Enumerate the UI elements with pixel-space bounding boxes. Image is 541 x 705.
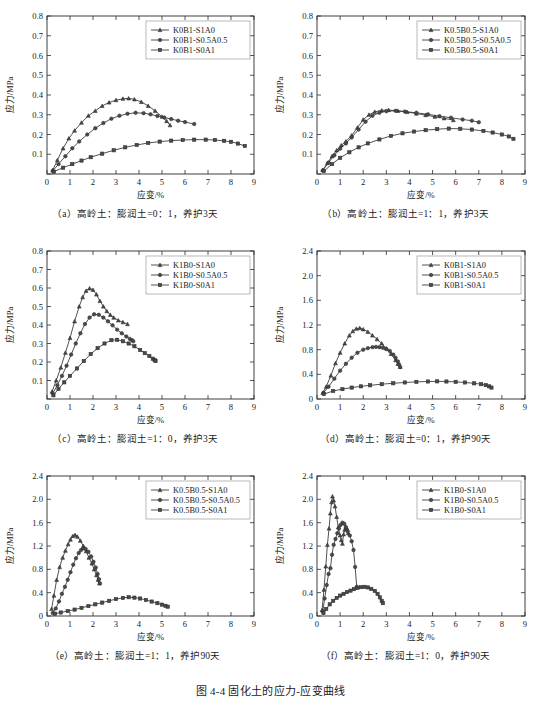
svg-text:0.2: 0.2: [32, 130, 43, 140]
svg-text:3: 3: [384, 619, 388, 629]
svg-text:7: 7: [206, 177, 211, 187]
svg-text:0.4: 0.4: [302, 369, 313, 379]
subplot-e: 012345678900.40.81.21.62.02.4应变/%应力/MPaK…: [0, 460, 270, 672]
svg-text:1.6: 1.6: [302, 518, 313, 528]
svg-text:2: 2: [91, 619, 95, 629]
svg-text:2.4: 2.4: [32, 471, 43, 481]
svg-text:K0.5B0.5-S0A1: K0.5B0.5-S0A1: [173, 506, 227, 515]
svg-text:8: 8: [500, 619, 504, 629]
svg-text:2: 2: [361, 619, 365, 629]
svg-text:5: 5: [160, 619, 164, 629]
svg-text:7: 7: [206, 402, 211, 412]
svg-text:3: 3: [384, 402, 388, 412]
svg-text:0: 0: [315, 177, 319, 187]
svg-text:6: 6: [183, 402, 188, 412]
svg-text:9: 9: [252, 402, 256, 412]
svg-text:7: 7: [477, 177, 482, 187]
svg-text:0.7: 0.7: [302, 31, 313, 41]
subplot-a-caption: （a）高岭土：膨润土=0：1，养护3天: [0, 206, 270, 220]
svg-text:应变/%: 应变/%: [137, 414, 165, 425]
svg-text:K1B0-S1A0: K1B0-S1A0: [173, 261, 215, 270]
subplot-d-caption: （d）高岭土：膨润土=0：1，养护90天: [270, 431, 541, 445]
svg-text:0.1: 0.1: [32, 376, 43, 386]
svg-text:0: 0: [45, 619, 49, 629]
svg-text:2: 2: [91, 402, 95, 412]
svg-text:1: 1: [338, 177, 342, 187]
svg-text:6: 6: [454, 619, 459, 629]
svg-text:1.2: 1.2: [32, 541, 43, 551]
svg-text:0.8: 0.8: [32, 11, 43, 21]
svg-text:0.1: 0.1: [32, 149, 43, 159]
svg-text:0: 0: [309, 394, 313, 404]
svg-text:应力/MPa: 应力/MPa: [274, 77, 285, 114]
svg-text:0.4: 0.4: [32, 320, 43, 330]
svg-text:3: 3: [384, 177, 388, 187]
subplot-a: 01234567890.10.20.30.40.50.60.70.8应变/%应力…: [0, 0, 270, 235]
svg-text:8: 8: [500, 177, 504, 187]
svg-text:4: 4: [137, 619, 142, 629]
svg-text:1: 1: [338, 402, 342, 412]
svg-text:7: 7: [477, 402, 482, 412]
svg-text:0.6: 0.6: [32, 283, 43, 293]
svg-text:0.8: 0.8: [32, 564, 43, 574]
svg-text:1.6: 1.6: [302, 295, 313, 305]
svg-text:K0B1-S1A0: K0B1-S1A0: [173, 26, 215, 35]
svg-text:8: 8: [229, 619, 233, 629]
subplot-b-svg: 01234567890.10.20.30.40.50.60.70.8应变/%应力…: [270, 0, 541, 218]
svg-text:2: 2: [91, 177, 95, 187]
svg-text:4: 4: [137, 402, 142, 412]
svg-text:9: 9: [523, 177, 527, 187]
svg-text:K0.5B0.5-S0A1: K0.5B0.5-S0A1: [444, 46, 498, 55]
subplot-c: 01234567890.10.20.30.40.50.60.70.8应变/%应力…: [0, 235, 270, 460]
svg-text:应变/%: 应变/%: [407, 631, 435, 642]
svg-text:0.3: 0.3: [302, 110, 313, 120]
svg-text:3: 3: [114, 177, 118, 187]
svg-text:应变/%: 应变/%: [407, 189, 435, 200]
svg-text:9: 9: [252, 619, 256, 629]
svg-text:K0.5B0.5-S1A0: K0.5B0.5-S1A0: [173, 486, 227, 495]
svg-text:0: 0: [45, 402, 49, 412]
svg-text:5: 5: [430, 619, 434, 629]
svg-text:0.8: 0.8: [302, 564, 313, 574]
svg-text:8: 8: [500, 402, 504, 412]
svg-text:0.4: 0.4: [32, 90, 43, 100]
svg-text:K0.5B0.5-S0.5A0.5: K0.5B0.5-S0.5A0.5: [173, 496, 240, 505]
svg-text:K1B0-S1A0: K1B0-S1A0: [444, 486, 486, 495]
svg-text:0.6: 0.6: [302, 51, 313, 61]
subplot-c-svg: 01234567890.10.20.30.40.50.60.70.8应变/%应力…: [0, 235, 270, 443]
svg-text:0: 0: [39, 611, 43, 621]
figure-caption: 图 4-4 固化土的应力-应变曲线: [0, 682, 541, 698]
subplot-c-caption: （c）高岭土：膨润土=1：0，养护3天: [0, 431, 270, 445]
svg-text:1: 1: [68, 619, 72, 629]
subplot-f: 012345678900.40.81.21.62.02.4应变/%应力/MPaK…: [270, 460, 541, 672]
svg-text:0.2: 0.2: [32, 357, 43, 367]
svg-text:0.8: 0.8: [302, 11, 313, 21]
svg-text:应变/%: 应变/%: [137, 189, 165, 200]
subplot-e-caption: （e）高岭土：膨润土=1：1，养护90天: [0, 648, 270, 662]
svg-text:2.0: 2.0: [302, 494, 313, 504]
svg-text:5: 5: [160, 402, 164, 412]
svg-text:7: 7: [206, 619, 211, 629]
svg-text:6: 6: [454, 177, 459, 187]
subplot-e-svg: 012345678900.40.81.21.62.02.4应变/%应力/MPaK…: [0, 460, 270, 660]
svg-text:9: 9: [523, 402, 527, 412]
svg-text:0.5: 0.5: [302, 70, 313, 80]
svg-text:K1B0-S0A1: K1B0-S0A1: [444, 506, 486, 515]
svg-text:0: 0: [315, 402, 319, 412]
svg-text:8: 8: [229, 177, 233, 187]
svg-text:2.4: 2.4: [302, 471, 313, 481]
svg-text:7: 7: [477, 619, 482, 629]
svg-text:5: 5: [160, 177, 164, 187]
svg-text:K1B0-S0.5A0.5: K1B0-S0.5A0.5: [173, 271, 227, 280]
subplot-a-svg: 01234567890.10.20.30.40.50.60.70.8应变/%应力…: [0, 0, 270, 218]
svg-text:0.8: 0.8: [302, 345, 313, 355]
svg-text:1: 1: [338, 619, 342, 629]
subplot-grid: 01234567890.10.20.30.40.50.60.70.8应变/%应力…: [0, 0, 541, 460]
svg-text:0.7: 0.7: [32, 31, 43, 41]
subplot-grid-bottom: 012345678900.40.81.21.62.02.4应变/%应力/MPaK…: [0, 460, 541, 672]
svg-text:6: 6: [454, 402, 459, 412]
svg-text:4: 4: [407, 619, 412, 629]
svg-text:6: 6: [183, 177, 188, 187]
svg-text:K1B0-S0.5A0.5: K1B0-S0.5A0.5: [444, 496, 498, 505]
svg-text:3: 3: [114, 402, 118, 412]
